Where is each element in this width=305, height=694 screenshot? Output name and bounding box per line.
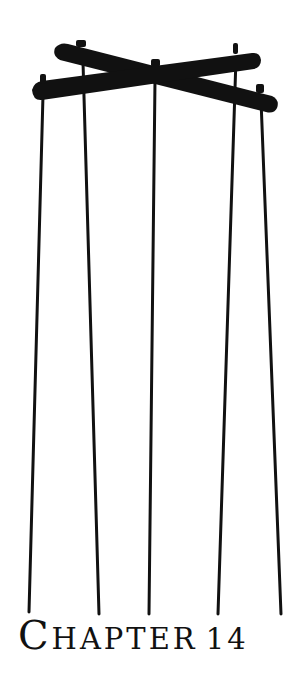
string-4	[218, 58, 236, 614]
string-3	[149, 80, 155, 614]
chapter-word-rest: HAPTER	[52, 622, 198, 656]
chapter-first-letter: C	[18, 612, 52, 658]
string-1	[29, 95, 43, 612]
chapter-number: 14	[206, 622, 249, 656]
chapter-heading: CHAPTER 14	[18, 612, 298, 658]
string-2	[83, 62, 99, 614]
marionette-control-illustration	[0, 0, 305, 694]
string-5	[261, 100, 281, 614]
strings	[29, 58, 281, 614]
